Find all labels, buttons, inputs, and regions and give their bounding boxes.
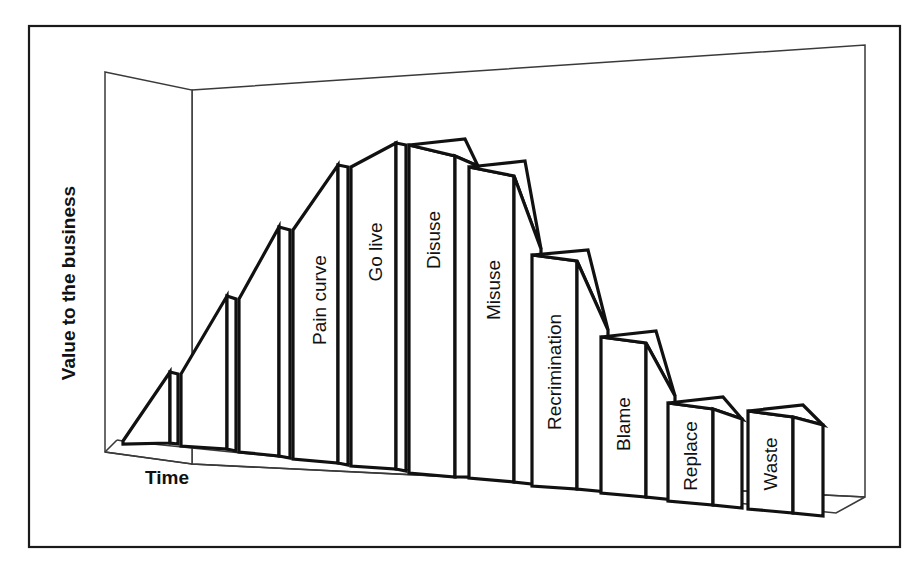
bar-front-face xyxy=(409,145,455,477)
bar-group-10: Replace xyxy=(668,397,742,508)
y-axis-title: Value to the business xyxy=(58,186,79,380)
bar-front-face xyxy=(351,143,396,469)
x-axis-title: Time xyxy=(145,467,189,488)
bar-label-waste: Waste xyxy=(760,437,781,490)
bar-group-11: Waste xyxy=(748,405,823,516)
bar-group-8: Recrimination xyxy=(532,250,608,492)
bar-side-face xyxy=(793,417,823,516)
three-d-bar-chart: Pain curve Go live Disuse Misuse Re xyxy=(0,0,922,570)
bar-label-recrimination: Recrimination xyxy=(544,314,565,430)
bar-side-face xyxy=(227,296,236,451)
bar-group-5: Go live xyxy=(351,143,406,471)
bar-side-face xyxy=(338,165,348,465)
bar-label-go-live: Go live xyxy=(365,222,386,281)
bar-label-blame: Blame xyxy=(613,397,634,451)
bar-side-face xyxy=(279,227,290,458)
bar-label-misuse: Misuse xyxy=(483,260,504,320)
bar-side-face xyxy=(713,409,742,508)
bar-group-9: Blame xyxy=(601,331,675,500)
chart-canvas: Pain curve Go live Disuse Misuse Re xyxy=(0,0,922,570)
bar-label-pain-curve: Pain curve xyxy=(309,255,330,345)
bar-label-replace: Replace xyxy=(680,421,701,491)
bar-group-7: Misuse xyxy=(469,161,541,485)
bar-front-face xyxy=(469,167,514,482)
bar-label-disuse: Disuse xyxy=(423,211,444,269)
bar-side-face xyxy=(170,372,178,444)
bar-side-face xyxy=(396,143,406,471)
